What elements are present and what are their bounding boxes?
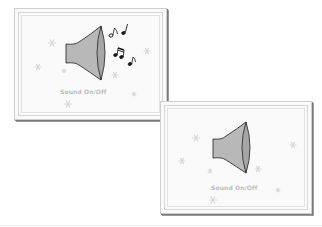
divider [0,225,322,226]
sound-toggle-panel-on[interactable]: Sound On/Off [14,8,167,120]
sound-caption: Sound On/Off [211,184,257,191]
speaker-illustration [15,9,168,121]
speaker-illustration [161,102,313,215]
speaker-icon [213,122,250,173]
sound-caption: Sound On/Off [60,88,106,95]
speaker-icon [66,26,105,80]
sound-toggle-panel-off[interactable]: Sound On/Off [160,101,312,214]
music-notes-icon [109,24,136,66]
